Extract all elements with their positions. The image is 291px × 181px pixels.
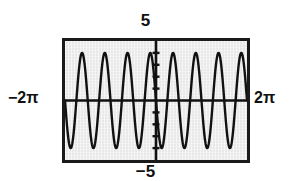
y-min-label: −5 [0, 163, 291, 180]
calculator-screen [62, 38, 250, 163]
y-max-label: 5 [0, 12, 291, 29]
plot-svg [65, 41, 247, 160]
x-min-label: −2π [8, 90, 39, 106]
graph-figure: 5 −5 −2π 2π [0, 0, 291, 181]
x-max-label: 2π [254, 90, 275, 106]
